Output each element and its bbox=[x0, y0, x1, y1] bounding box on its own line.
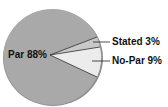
label-stated: Stated 3% bbox=[112, 37, 160, 47]
label-nopar: No-Par 9% bbox=[112, 56, 162, 66]
label-par: Par 88% bbox=[8, 50, 47, 60]
